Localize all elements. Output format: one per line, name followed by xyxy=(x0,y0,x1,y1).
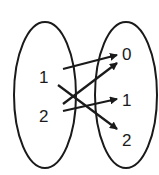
codomain-element-2: 2 xyxy=(122,131,131,150)
domain-element-1: 1 xyxy=(39,68,48,87)
mapping-diagram: 1 2 0 1 2 xyxy=(0,0,159,175)
arrow-2-to-0 xyxy=(63,63,117,104)
domain-set-ellipse xyxy=(14,22,76,168)
codomain-element-0: 0 xyxy=(122,45,131,64)
domain-element-2: 2 xyxy=(39,107,48,126)
codomain-element-1: 1 xyxy=(122,91,131,110)
arrow-1-to-2 xyxy=(58,85,117,129)
